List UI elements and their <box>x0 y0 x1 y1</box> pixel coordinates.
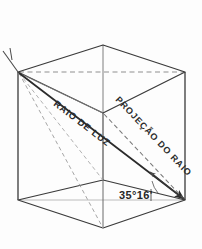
corner-tick-mark <box>3 48 18 72</box>
technical-drawing-figure: RAIO DE LUZ PROJEÇÃO DO RAIO 35°16' <box>0 0 202 249</box>
top-face-outline <box>18 45 185 113</box>
construction-rays <box>19 73 185 228</box>
angle-arc <box>152 181 158 193</box>
corner-stub-cross <box>10 48 12 60</box>
label-angle-value: 35°16' <box>119 189 153 201</box>
corner-stub-line <box>3 51 18 72</box>
cube-bottom-face <box>18 180 185 228</box>
cube-top-face <box>18 45 185 113</box>
cube-diagram-svg: RAIO DE LUZ PROJEÇÃO DO RAIO 35°16' <box>0 0 202 249</box>
bottom-face-outline <box>18 180 185 228</box>
cube-hidden-edges <box>19 45 184 200</box>
